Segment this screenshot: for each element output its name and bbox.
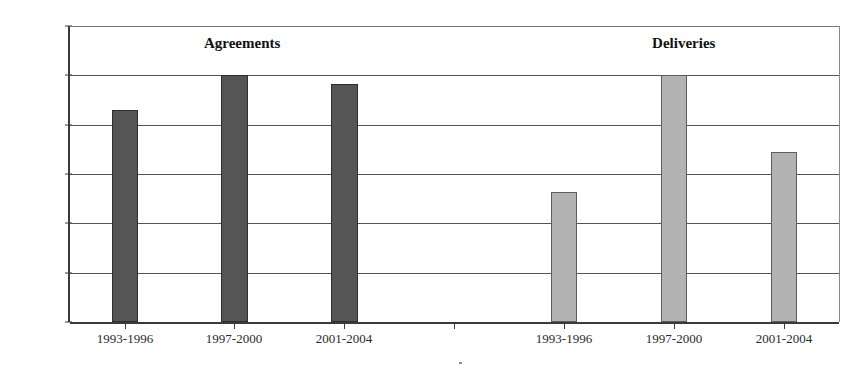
bar-agreements-1993-1996 bbox=[112, 110, 138, 322]
gridline bbox=[70, 125, 839, 126]
x-tick-mark bbox=[784, 322, 785, 329]
x-tick-mark bbox=[234, 322, 235, 329]
x-tick-label: 1997-2000 bbox=[206, 332, 262, 345]
bar-deliveries-2001-2004 bbox=[771, 152, 797, 322]
x-tick-mark bbox=[344, 322, 345, 329]
x-tick-label: 2001-2004 bbox=[756, 332, 812, 345]
group-title-agreements: Agreements bbox=[204, 36, 280, 51]
x-tick-mark bbox=[125, 322, 126, 329]
x-tick-label: 1993-1996 bbox=[536, 332, 592, 345]
gridline bbox=[70, 26, 839, 27]
bar-chart-figure: 0100020003000400050006000 AgreementsDeli… bbox=[0, 0, 856, 373]
group-title-deliveries: Deliveries bbox=[652, 36, 715, 51]
x-tick-mark bbox=[564, 322, 565, 329]
gridline bbox=[70, 75, 839, 76]
x-tick-label: 2001-2004 bbox=[316, 332, 372, 345]
x-tick-label: 1993-1996 bbox=[97, 332, 153, 345]
gridline bbox=[70, 174, 839, 175]
gridline bbox=[70, 223, 839, 224]
x-tick-label: 1997-2000 bbox=[646, 332, 702, 345]
gridline bbox=[70, 273, 839, 274]
bar-agreements-1997-2000 bbox=[221, 75, 248, 322]
x-tick-mark bbox=[454, 322, 455, 329]
bar-deliveries-1993-1996 bbox=[551, 192, 577, 322]
plot-area: AgreementsDeliveries 1993-19961997-20002… bbox=[68, 26, 840, 322]
scan-artifact-dot bbox=[459, 362, 462, 364]
bar-deliveries-1997-2000 bbox=[661, 75, 687, 322]
x-tick-mark bbox=[674, 322, 675, 329]
bar-agreements-2001-2004 bbox=[331, 84, 358, 322]
